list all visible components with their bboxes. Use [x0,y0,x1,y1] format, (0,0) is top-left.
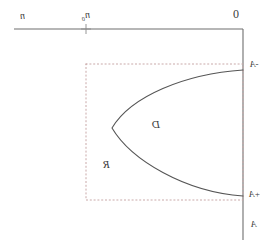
label-axis-tick-subscript: 0 [82,15,85,22]
region-d-curve [112,70,243,196]
dotted-region-rectangle [86,64,243,200]
label-axis-tick: n0 [82,10,90,20]
label-right-mid: +A [249,190,261,199]
label-region-d: D [152,119,160,130]
label-right-bottom: A [251,220,257,229]
axis-tick-mark [81,24,91,34]
figure-canvas: n n0 0 -A +A A D R [0,0,270,244]
label-right-top: -A [250,60,259,69]
label-right-top-subscript: - [256,59,259,69]
diagram-svg [0,0,270,244]
label-origin: 0 [233,8,239,20]
label-region-r: R [103,159,110,170]
label-axis-left: n [20,11,25,21]
label-right-mid-text: A [249,189,255,199]
label-right-top-text: A [250,59,256,69]
label-axis-tick-text: n [85,9,90,20]
label-right-mid-subscript: + [255,189,261,199]
